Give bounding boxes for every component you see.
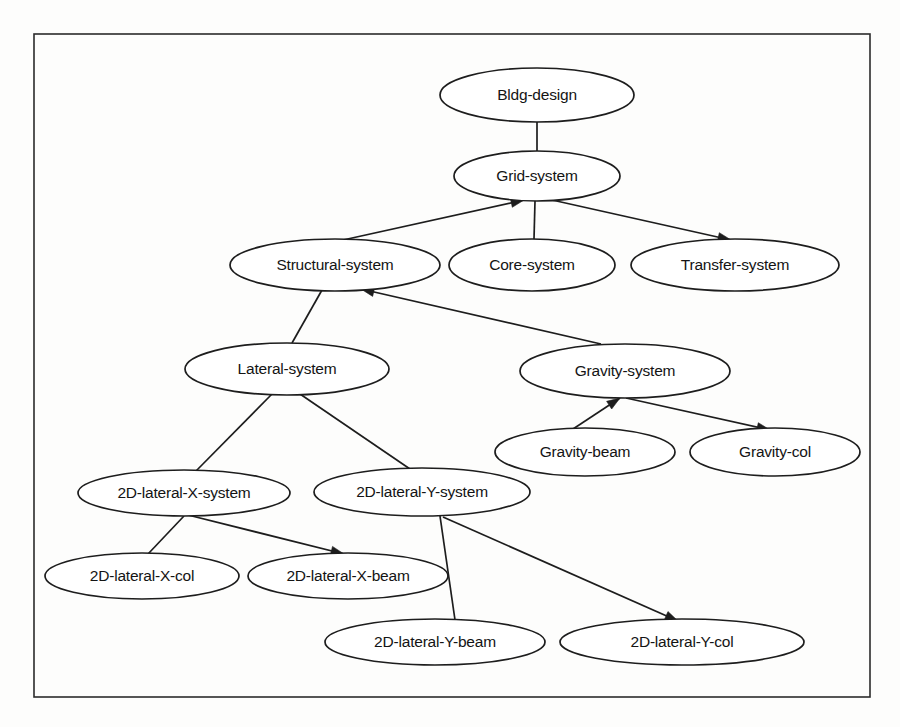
node-label: 2D-lateral-X-col [90,567,194,584]
node-label: 2D-lateral-X-beam [286,567,409,584]
edge-lateral-system-to-2d-lateral-y-system [300,394,410,469]
edge-gravity-system-to-gravity-beam [573,398,620,429]
node-core-system[interactable]: Core-system [449,239,615,291]
node-label: 2D-lateral-Y-beam [374,633,496,650]
node-2d-lateral-x-beam[interactable]: 2D-lateral-X-beam [248,553,448,599]
edge-lateral-system-to-2d-lateral-x-system [196,394,272,471]
node-label: Gravity-beam [540,443,631,460]
arrow-head-icon [607,398,620,409]
edge-2d-lateral-y-system-to-2d-lateral-y-col [443,517,678,621]
edge-grid-system-to-transfer-system [552,200,731,242]
hierarchy-diagram: Bldg-designGrid-systemStructural-systemC… [0,0,900,727]
node-structural-system[interactable]: Structural-system [230,239,440,291]
node-label: Gravity-col [739,443,811,460]
node-label: 2D-lateral-X-system [117,484,250,501]
diagram-page: Bldg-designGrid-systemStructural-systemC… [0,0,900,727]
node-label: Grid-system [496,167,577,184]
edge-line [361,289,601,344]
node-gravity-col[interactable]: Gravity-col [690,428,860,476]
node-2d-lateral-y-system[interactable]: 2D-lateral-Y-system [314,468,530,516]
node-2d-lateral-y-col[interactable]: 2D-lateral-Y-col [560,619,804,665]
edge-line [148,516,184,554]
edge-line [534,201,535,239]
node-2d-lateral-x-system[interactable]: 2D-lateral-X-system [78,470,290,516]
edge-structural-system-to-grid-system [343,198,524,240]
node-2d-lateral-y-beam[interactable]: 2D-lateral-Y-beam [325,619,545,665]
edge-line [300,394,410,469]
node-label: Gravity-system [575,362,676,379]
node-label: 2D-lateral-Y-col [630,633,733,650]
edge-line [626,398,770,430]
edge-line [292,290,322,343]
node-label: Structural-system [276,256,393,273]
edge-line [343,200,524,240]
edge-structural-system-to-lateral-system [292,290,322,343]
node-label: Lateral-system [238,360,337,377]
node-label: Bldg-design [497,86,577,103]
node-lateral-system[interactable]: Lateral-system [185,343,389,395]
node-gravity-system[interactable]: Gravity-system [520,344,730,398]
node-transfer-system[interactable]: Transfer-system [631,239,839,291]
edge-2d-lateral-x-system-to-2d-lateral-x-col [148,516,184,554]
node-label: Core-system [489,256,575,273]
edge-2d-lateral-x-system-to-2d-lateral-x-beam [188,515,344,555]
node-layer: Bldg-designGrid-systemStructural-systemC… [45,68,860,665]
edge-core-system-to-grid-system [534,201,535,239]
node-bldg-design[interactable]: Bldg-design [440,68,634,122]
node-gravity-beam[interactable]: Gravity-beam [495,428,675,476]
edge-line [188,515,344,554]
edge-line [552,200,731,240]
node-label: Transfer-system [681,256,789,273]
edge-line [443,517,678,621]
node-label: 2D-lateral-Y-system [356,483,488,500]
node-2d-lateral-x-col[interactable]: 2D-lateral-X-col [45,553,239,599]
edge-structural-system-to-gravity-system [361,287,601,344]
node-grid-system[interactable]: Grid-system [454,151,620,201]
edge-gravity-system-to-gravity-col [626,398,770,432]
edge-line [196,394,272,471]
